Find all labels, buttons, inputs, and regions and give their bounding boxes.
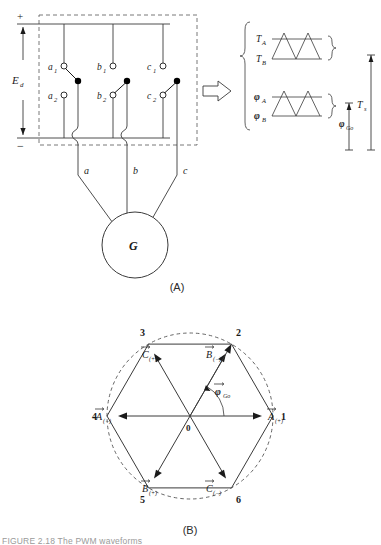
panel-b-diagram: 0 1 2 3 4 5 6 A (+) A (−) B (−) C (+) B … bbox=[0, 300, 381, 545]
switch-b1-contact[interactable] bbox=[110, 63, 116, 69]
vector-a-minus-label: A bbox=[95, 411, 103, 422]
switch-c1-contact[interactable] bbox=[160, 63, 166, 69]
waveform-tb-sub: B bbox=[262, 59, 266, 66]
vector-phigo-arrowhead bbox=[224, 344, 231, 354]
vector-c-minus bbox=[190, 416, 223, 472]
hexagon-vertex-6: 6 bbox=[236, 494, 241, 505]
vector-c-plus-sub: (+) bbox=[149, 356, 157, 363]
pointer-arrow-icon bbox=[203, 81, 231, 101]
vector-a-plus-label: A bbox=[267, 411, 275, 422]
vector-phigo-sub: Go bbox=[223, 393, 230, 399]
hexagon-vertex-5: 5 bbox=[140, 494, 145, 505]
phase-b-label: b bbox=[133, 165, 138, 176]
vector-a-minus-sub: (−) bbox=[103, 418, 111, 425]
dimension-ts-sub: s bbox=[364, 105, 367, 112]
waveform-ta-sub: A bbox=[261, 39, 266, 46]
waveform-bottom-right-brace bbox=[328, 94, 336, 118]
switch-b2-blade[interactable] bbox=[115, 83, 127, 94]
origin-label: 0 bbox=[186, 423, 191, 433]
vector-b-minus-sub: (−) bbox=[213, 356, 221, 363]
dimension-phigo-arrowhead bbox=[347, 103, 352, 110]
switch-c1-label: c bbox=[147, 62, 152, 72]
switch-c2-sub: 2 bbox=[153, 96, 157, 103]
dimension-phigo-label: φ bbox=[339, 119, 345, 129]
vector-phigo-label: φ bbox=[215, 386, 221, 397]
leg-a-pole-node bbox=[75, 78, 81, 84]
switch-c2-label: c bbox=[147, 91, 152, 101]
supply-voltage-subscript: d bbox=[20, 81, 24, 89]
vector-a-plus-arrowhead bbox=[253, 413, 262, 420]
switch-a1-label: a bbox=[48, 62, 53, 72]
supply-minus-sign: − bbox=[17, 139, 24, 153]
waveform-outer-brace bbox=[240, 22, 250, 130]
switch-c1-sub: 1 bbox=[153, 67, 156, 74]
switch-a1-blade[interactable] bbox=[66, 69, 78, 81]
leg-a-output-wire bbox=[72, 84, 78, 175]
phase-a-label: a bbox=[84, 165, 89, 176]
ed-arrowhead-up bbox=[20, 27, 25, 34]
vector-b-minus-overbar-icon bbox=[205, 346, 214, 349]
waveform-bottom-triangle bbox=[272, 91, 320, 116]
waveform-phia-sub: A bbox=[261, 97, 266, 104]
switch-a1-sub: 1 bbox=[54, 67, 57, 74]
generator-label: G bbox=[129, 239, 138, 253]
vector-b-plus-label: B bbox=[142, 483, 148, 494]
phase-c-label: c bbox=[183, 165, 188, 176]
dimension-phigo-sub: Go bbox=[346, 125, 353, 131]
vector-a-minus-arrowhead bbox=[118, 413, 127, 420]
vector-c-plus-label: C bbox=[142, 349, 149, 360]
switch-b2-label: b bbox=[97, 91, 102, 101]
switch-a2-contact[interactable] bbox=[61, 92, 67, 98]
panel-a-diagram: + − E d a bbox=[0, 0, 381, 300]
vector-c-minus-label: C bbox=[206, 483, 213, 494]
vector-a-plus-sub: (+) bbox=[275, 418, 283, 425]
hexagon-vertex-2: 2 bbox=[236, 327, 241, 338]
vector-phigo-overbar-icon bbox=[214, 383, 224, 386]
vector-c-minus-overbar-icon bbox=[205, 480, 214, 483]
waveform-phib-label: φ bbox=[254, 110, 260, 121]
switch-a2-sub: 2 bbox=[54, 96, 58, 103]
waveform-phia-label: φ bbox=[254, 91, 260, 102]
supply-voltage-label: E bbox=[11, 74, 19, 86]
converter-enclosure bbox=[39, 15, 197, 145]
switch-a1-contact[interactable] bbox=[61, 63, 67, 69]
vector-b-minus-label: B bbox=[206, 349, 212, 360]
waveform-top-triangle bbox=[272, 33, 320, 59]
leg-b-output-wire bbox=[121, 84, 127, 218]
panel-a-caption: (A) bbox=[170, 281, 185, 293]
waveform-top-right-brace bbox=[328, 36, 336, 60]
figure-bottom-caption: FIGURE 2.18 The PWM waveforms bbox=[2, 536, 232, 545]
switch-b2-sub: 2 bbox=[103, 96, 107, 103]
dimension-ts-label: T bbox=[357, 99, 364, 110]
vector-b-plus-arrowhead bbox=[154, 470, 162, 479]
waveform-phib-sub: B bbox=[262, 116, 266, 123]
vector-c-minus-arrowhead bbox=[218, 470, 226, 479]
figure-root: + − E d a bbox=[0, 0, 381, 545]
hexagon-vertex-3: 3 bbox=[140, 327, 145, 338]
supply-plus-sign: + bbox=[17, 10, 23, 22]
phase-c-lead bbox=[152, 175, 177, 219]
ed-arrowhead-down bbox=[20, 128, 25, 135]
switch-b1-sub: 1 bbox=[103, 67, 106, 74]
vector-a-minus-overbar-icon bbox=[95, 408, 104, 411]
vector-b-plus-sub: (+) bbox=[149, 490, 157, 497]
switch-c2-blade[interactable] bbox=[165, 83, 177, 94]
switch-a2-label: a bbox=[48, 91, 53, 101]
vector-c-plus bbox=[158, 360, 191, 416]
vector-c-minus-sub: (−) bbox=[213, 490, 221, 497]
panel-b-caption: (B) bbox=[183, 524, 198, 536]
dimension-ts-arrowhead bbox=[369, 55, 374, 62]
switch-b1-label: b bbox=[97, 62, 102, 72]
